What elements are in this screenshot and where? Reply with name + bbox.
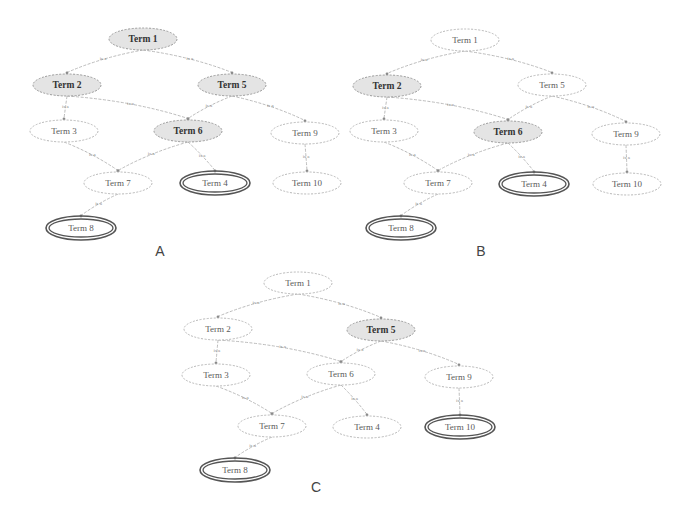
- edge-t2-t6: [387, 97, 508, 120]
- node-label: Term 2: [53, 80, 82, 90]
- node-label: Term 3: [203, 370, 229, 380]
- edge-t2-t6: [67, 96, 188, 119]
- node-term-10: Term 10: [593, 173, 661, 195]
- edge-t1-t5: [298, 294, 381, 318]
- edge-label: is a: [382, 105, 390, 110]
- edge-label: is a: [214, 348, 222, 353]
- edge-label: is a: [127, 101, 135, 106]
- node-label: Term 3: [51, 126, 77, 136]
- edge-label: is a: [468, 152, 476, 157]
- edge-t5-t9: [381, 341, 459, 365]
- node-label: Term 7: [105, 178, 131, 188]
- edge-label: is a: [95, 201, 103, 206]
- node-label: Term 9: [292, 128, 318, 138]
- edge-label: is a: [267, 103, 275, 108]
- edge-label: is a: [186, 56, 194, 61]
- edge-label: is a: [419, 348, 427, 353]
- node-label: Term 2: [373, 81, 402, 91]
- node-term-8: Term 8: [366, 216, 436, 240]
- edge-label: is a: [351, 396, 359, 401]
- edge-label: is a: [301, 394, 309, 399]
- edge-label: is a: [62, 104, 70, 109]
- edge-label: is a: [409, 152, 417, 157]
- node-label: Term 4: [202, 178, 228, 188]
- node-label: Term 6: [328, 369, 354, 379]
- edge-label: is a: [100, 56, 108, 61]
- node-label: Term 1: [285, 278, 311, 288]
- panel-b: is ais ais ais ais ais ais ais ais ais a…: [350, 29, 661, 259]
- node-term-7: Term 7: [84, 172, 152, 194]
- node-term-8: Term 8: [46, 216, 116, 240]
- node-term-3: Term 3: [350, 120, 418, 142]
- ontology-figure: is ais ais ais ais ais ais ais ais ais a…: [0, 0, 681, 518]
- node-label: Term 2: [205, 324, 231, 334]
- node-term-9: Term 9: [425, 366, 493, 388]
- node-term-9: Term 9: [592, 123, 660, 145]
- edge-label: is a: [303, 154, 311, 159]
- edge-label: is a: [415, 201, 423, 206]
- edge-label: is a: [338, 301, 346, 306]
- node-term-2: Term 2: [33, 74, 101, 96]
- node-term-4: Term 4: [333, 416, 401, 438]
- node-term-7: Term 7: [238, 415, 306, 437]
- node-label: Term 10: [445, 422, 476, 432]
- nodes: Term 1Term 2Term 5Term 3Term 6Term 9Term…: [350, 29, 661, 240]
- node-label: Term 8: [388, 223, 414, 233]
- node-label: Term 8: [222, 465, 248, 475]
- node-label: Term 5: [218, 80, 247, 90]
- edge-t1-t2: [387, 51, 465, 74]
- node-label: Term 5: [367, 325, 396, 335]
- edge-t1-t2: [218, 294, 298, 317]
- node-term-5: Term 5: [198, 74, 266, 96]
- panel-label: B: [476, 243, 485, 259]
- node-term-2: Term 2: [353, 75, 421, 97]
- node-label: Term 8: [68, 223, 94, 233]
- edge-label: is a: [205, 103, 213, 108]
- node-label: Term 9: [613, 129, 639, 139]
- node-term-8: Term 8: [200, 458, 270, 482]
- node-label: Term 6: [494, 127, 523, 137]
- node-label: Term 3: [371, 126, 397, 136]
- edge-label: is a: [525, 104, 533, 109]
- node-label: Term 10: [292, 178, 323, 188]
- node-label: Term 7: [425, 178, 451, 188]
- node-term-5: Term 5: [518, 74, 586, 96]
- edge-label: is a: [242, 395, 250, 400]
- node-term-4: Term 4: [499, 172, 569, 196]
- node-term-1: Term 1: [109, 28, 177, 50]
- node-term-10: Term 10: [425, 415, 495, 439]
- node-label: Term 1: [129, 34, 158, 44]
- node-term-7: Term 7: [404, 172, 472, 194]
- node-label: Term 5: [539, 80, 565, 90]
- edge-label: is a: [507, 56, 515, 61]
- node-term-3: Term 3: [30, 120, 98, 142]
- panel-a: is ais ais ais ais ais ais ais ais ais a…: [30, 28, 341, 259]
- panel-label: A: [155, 243, 165, 259]
- edge-label: is a: [253, 300, 261, 305]
- node-term-3: Term 3: [182, 364, 250, 386]
- edge-label: is a: [249, 443, 257, 448]
- edge-label: is a: [148, 151, 156, 156]
- node-term-4: Term 4: [180, 171, 250, 195]
- node-term-5: Term 5: [347, 319, 415, 341]
- edge-label: is a: [89, 152, 97, 157]
- edge-label: is a: [357, 347, 365, 352]
- node-label: Term 9: [446, 372, 472, 382]
- edge-label: is a: [518, 154, 526, 159]
- edge-label: is a: [587, 104, 595, 109]
- node-label: Term 4: [521, 179, 547, 189]
- node-label: Term 1: [452, 35, 478, 45]
- node-label: Term 6: [174, 126, 203, 136]
- node-term-6: Term 6: [154, 120, 222, 142]
- edge-label: is a: [279, 344, 287, 349]
- edge-label: is a: [447, 102, 455, 107]
- node-term-6: Term 6: [307, 363, 375, 385]
- edge-label: is a: [623, 155, 631, 160]
- edge-label: is a: [421, 57, 429, 62]
- node-term-10: Term 10: [273, 172, 341, 194]
- edge-label: is a: [456, 398, 464, 403]
- node-term-2: Term 2: [184, 318, 252, 340]
- edge-label: is a: [199, 153, 207, 158]
- edge-t1-t5: [143, 50, 232, 73]
- edge-t2-t6: [218, 340, 341, 362]
